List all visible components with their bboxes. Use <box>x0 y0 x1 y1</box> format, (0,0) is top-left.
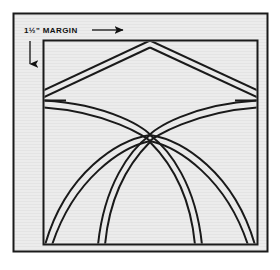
inner-square-group <box>43 41 258 246</box>
margin-label: 1½" MARGIN <box>24 26 78 35</box>
pattern-diagram-svg: 1½" MARGIN <box>0 0 280 270</box>
figure-root: 1½" MARGIN <box>0 0 280 270</box>
